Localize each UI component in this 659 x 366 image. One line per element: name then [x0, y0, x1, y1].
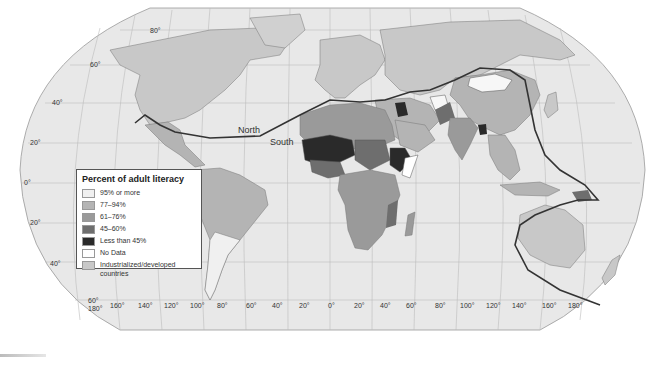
svg-text:40°: 40°: [380, 302, 391, 309]
swatch-no-data: [82, 249, 95, 258]
svg-text:160°: 160°: [110, 302, 125, 309]
legend-item: 95% or more: [82, 188, 196, 198]
svg-text:60°: 60°: [406, 302, 417, 309]
svg-text:0°: 0°: [328, 302, 335, 309]
legend-item: 61–76%: [82, 212, 196, 222]
svg-text:160°: 160°: [542, 302, 557, 309]
swatch-45-60: [82, 225, 95, 234]
swatch-developed: [82, 261, 95, 270]
svg-text:180°: 180°: [568, 302, 583, 309]
svg-text:180°: 180°: [88, 305, 103, 312]
literacy-legend: Percent of adult literacy 95% or more 77…: [76, 169, 202, 269]
svg-text:140°: 140°: [138, 302, 153, 309]
legend-item: Less than 45%: [82, 236, 196, 246]
svg-text:100°: 100°: [460, 302, 475, 309]
svg-text:20°: 20°: [299, 302, 310, 309]
legend-item: No Data: [82, 248, 196, 258]
swatch-77-94: [82, 201, 95, 210]
swatch-61-76: [82, 213, 95, 222]
svg-text:140°: 140°: [512, 302, 527, 309]
swatch-95-or-more: [82, 189, 95, 198]
south-label: South: [270, 137, 294, 147]
svg-text:120°: 120°: [486, 302, 501, 309]
lat-label: 20°: [30, 139, 41, 146]
swatch-less-than-45: [82, 237, 95, 246]
decorative-bar: [0, 354, 46, 357]
legend-item: 77–94%: [82, 200, 196, 210]
lat-label: 60°: [88, 297, 99, 304]
lat-label: 40°: [50, 260, 61, 267]
lat-label: 40°: [52, 99, 63, 106]
legend-title: Percent of adult literacy: [82, 174, 196, 184]
svg-text:100°: 100°: [190, 302, 205, 309]
svg-text:80°: 80°: [435, 302, 446, 309]
svg-text:120°: 120°: [164, 302, 179, 309]
lat-label: 80°: [150, 27, 161, 34]
lat-label: 0°: [24, 179, 31, 186]
lat-label: 60°: [90, 61, 101, 68]
svg-text:20°: 20°: [354, 302, 365, 309]
lat-label: 20°: [30, 219, 41, 226]
svg-text:40°: 40°: [272, 302, 283, 309]
svg-text:60°: 60°: [246, 302, 257, 309]
legend-item: 45–60%: [82, 224, 196, 234]
svg-text:80°: 80°: [217, 302, 228, 309]
legend-item: Industrialized/developed countries: [82, 260, 196, 278]
north-label: North: [238, 125, 260, 135]
